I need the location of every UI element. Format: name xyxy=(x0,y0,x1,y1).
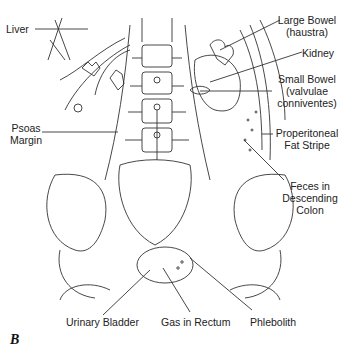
label-feces-descending-colon: Feces in Descending Colon xyxy=(280,180,340,216)
figure-letter: B xyxy=(10,332,19,348)
label-large-bowel-line1: Large Bowel xyxy=(274,14,340,26)
label-large-bowel-line2: (haustra) xyxy=(274,26,340,38)
label-properitoneal-fat-stripe: Properitoneal Fat Stripe xyxy=(272,127,342,151)
label-small-bowel-line1: Small Bowel xyxy=(272,73,342,85)
ribs-left xyxy=(48,18,130,112)
label-small-bowel-line2: (valvulae xyxy=(272,85,342,97)
label-feces-line3: Colon xyxy=(280,204,340,216)
label-small-bowel: Small Bowel (valvulae conniventes) xyxy=(272,73,342,109)
label-urinary-bladder: Urinary Bladder xyxy=(66,316,139,328)
label-phlebolith: Phlebolith xyxy=(250,316,296,328)
label-kidney: Kidney xyxy=(302,47,334,59)
label-small-bowel-line3: conniventes) xyxy=(272,97,342,109)
lumbar-spine xyxy=(125,18,189,160)
label-liver: Liver xyxy=(6,23,29,35)
anatomy-line-drawing xyxy=(0,0,343,352)
label-psoas-line1: Psoas xyxy=(8,122,44,134)
label-gas-in-rectum: Gas in Rectum xyxy=(161,316,230,328)
label-properitoneal-line2: Fat Stripe xyxy=(272,139,342,151)
label-feces-line1: Feces in xyxy=(280,180,340,192)
label-properitoneal-line1: Properitoneal xyxy=(272,127,342,139)
label-large-bowel: Large Bowel (haustra) xyxy=(274,14,340,38)
label-psoas-margin: Psoas Margin xyxy=(8,122,44,146)
label-feces-line2: Descending xyxy=(280,192,340,204)
psoas-margins xyxy=(105,25,210,180)
label-psoas-line2: Margin xyxy=(8,134,44,146)
abdominal-xray-diagram: Liver Large Bowel (haustra) Kidney Small… xyxy=(0,0,343,352)
